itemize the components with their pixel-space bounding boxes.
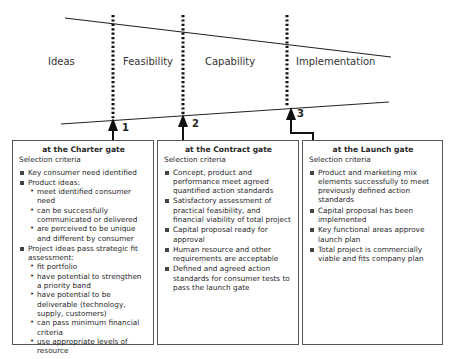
- funnel-bottom-line: [61, 102, 389, 124]
- launch-gate-box: at the Launch gate Selection criteria Pr…: [302, 140, 443, 345]
- sub-criterion-item: have potential to strengthen a priority …: [28, 272, 148, 291]
- criterion-item: Human resource and other requirements ar…: [164, 245, 293, 264]
- stage-label-capability: Capability: [205, 56, 255, 67]
- gate-number-1: 1: [122, 122, 129, 133]
- gate-number-2: 2: [192, 118, 199, 129]
- box-subtitle: Selection criteria: [164, 155, 293, 165]
- criterion-item: Satisfactory assessment of practical fea…: [164, 196, 293, 224]
- criterion-item: Product ideas: meet identified consumer …: [19, 178, 148, 243]
- criterion-item: Capital proposal has been implemented: [309, 206, 437, 225]
- stage-label-implementation: Implementation: [296, 56, 375, 67]
- criterion-item: Concept, product and performance meet ag…: [164, 168, 293, 196]
- criterion-item: Project ideas pass strategic fit assessm…: [19, 244, 148, 356]
- sub-criterion-item: fit portfolio: [28, 262, 148, 271]
- criterion-item: Capital proposal ready for approval: [164, 225, 293, 244]
- criterion-item: Key consumer need identified: [19, 168, 148, 177]
- criterion-item: Defined and agreed action standards for …: [164, 264, 293, 292]
- sub-criterion-item: use appropriate levels of resource: [28, 337, 148, 356]
- sub-criterion-item: are perceived to be unique and different…: [28, 224, 148, 243]
- contract-gate-box: at the Contract gate Selection criteria …: [157, 140, 299, 345]
- box-subtitle: Selection criteria: [19, 155, 148, 165]
- gate-number-3: 3: [297, 108, 304, 119]
- box-subtitle: Selection criteria: [309, 155, 437, 165]
- sub-criterion-item: can pass minimum financial criteria: [28, 318, 148, 337]
- criterion-item: Product and marketing mix elements succe…: [309, 168, 437, 205]
- sub-criterion-item: can be successfully communicated or deli…: [28, 206, 148, 225]
- stage-label-feasibility: Feasibility: [123, 56, 173, 67]
- box-title: at the Launch gate: [309, 145, 437, 155]
- box-title: at the Contract gate: [164, 145, 293, 155]
- stage-label-ideas: Ideas: [48, 56, 75, 67]
- criterion-item: Total project is commercially viable and…: [309, 245, 437, 264]
- criterion-item: Key functional areas approve launch plan: [309, 225, 437, 244]
- charter-gate-box: at the Charter gate Selection criteria K…: [12, 140, 154, 345]
- sub-criterion-item: have potential to be deliverable (techno…: [28, 290, 148, 318]
- box-title: at the Charter gate: [19, 145, 148, 155]
- gate-2-arrow-icon: [178, 114, 188, 140]
- sub-criterion-item: meet identified consumer need: [28, 187, 148, 206]
